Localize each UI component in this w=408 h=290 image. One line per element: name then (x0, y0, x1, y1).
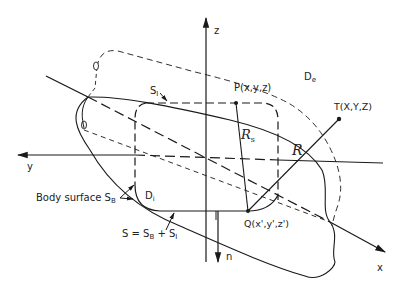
point-t-label: T(X,Y,Z) (333, 101, 372, 112)
normal-label: n (226, 251, 232, 262)
left-dashed-connector (88, 67, 97, 97)
point-q-label: Q(x',y',z') (244, 218, 289, 229)
rs-line (236, 103, 248, 211)
s-i-pointer (160, 93, 167, 101)
interior-domain-label: Di (145, 190, 155, 203)
exterior-domain-label: De (304, 71, 316, 84)
r-label: R (291, 142, 303, 158)
s-i-label: SI (150, 85, 158, 98)
z-axis-label: z (214, 25, 219, 36)
x-axis-label: x (377, 262, 383, 273)
x-axis-solid-left (46, 76, 88, 97)
body-surface-pointer-up (120, 185, 134, 198)
rs-label: Rs (240, 127, 255, 144)
body-surface-label: Body surface SB (36, 192, 116, 205)
upper-oval-marker (94, 62, 99, 70)
y-axis-solid-right (278, 160, 383, 163)
y-axis-label: y (27, 161, 33, 172)
s-i-left-dashed (135, 103, 146, 185)
x-axis-solid-right (330, 222, 385, 252)
diagram-canvas: x y z n P(x,y,z) Q(x',y',z') Rs T(X,Y,Z)… (0, 0, 408, 290)
point-p-label: P(x,y,z) (234, 82, 271, 93)
s-i-top-dashed (146, 103, 278, 200)
total-surface-label: S = SB + SI (122, 228, 177, 241)
